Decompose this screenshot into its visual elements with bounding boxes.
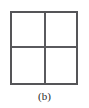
horizontal-divider-line	[12, 46, 76, 48]
figure-panel-b: (b)	[0, 0, 89, 108]
figure-caption: (b)	[0, 90, 89, 103]
quadrant-cell-top-left[interactable]	[12, 13, 44, 46]
quadrant-cell-bottom-right[interactable]	[46, 48, 76, 83]
quadrant-square	[10, 11, 78, 85]
quadrant-cell-top-right[interactable]	[46, 13, 76, 46]
vertical-divider-line	[44, 13, 46, 83]
quadrant-cell-bottom-left[interactable]	[12, 48, 44, 83]
cropped-text-sliver	[0, 0, 89, 7]
